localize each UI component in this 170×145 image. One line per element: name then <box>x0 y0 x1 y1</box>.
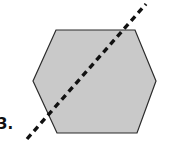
geometry-figure: 3. <box>0 0 170 145</box>
figure-canvas <box>0 0 170 145</box>
hexagon-shape <box>33 30 156 133</box>
problem-number-label: 3. <box>0 117 13 132</box>
